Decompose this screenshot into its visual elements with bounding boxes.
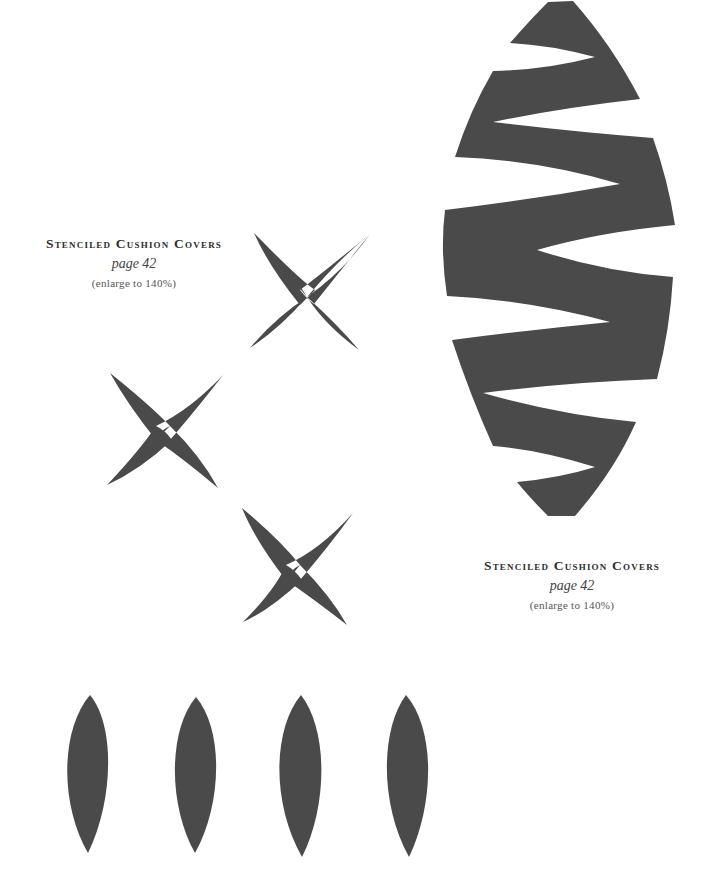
cross-stencil-2 — [107, 373, 223, 488]
caption-right: Stenciled Cushion Covers page 42 (enlarg… — [442, 558, 701, 613]
caption-title: Stenciled Cushion Covers — [442, 558, 701, 574]
stencil-artwork — [0, 0, 701, 887]
caption-enlarge-note: (enlarge to 140%) — [442, 597, 701, 613]
zigzag-oval-stencil — [443, 1, 675, 516]
leaf-stencil-2 — [175, 697, 216, 853]
leaf-stencil-4 — [387, 695, 428, 857]
leaf-stencil-3 — [279, 695, 321, 857]
caption-title: Stenciled Cushion Covers — [4, 236, 264, 252]
leaf-stencil-1 — [67, 695, 108, 853]
caption-page: page 42 — [442, 576, 701, 596]
caption-enlarge-note: (enlarge to 140%) — [4, 275, 264, 291]
caption-left: Stenciled Cushion Covers page 42 (enlarg… — [4, 236, 264, 291]
cross-stencil-3 — [242, 508, 353, 625]
cross-stencil-1 — [250, 233, 370, 350]
caption-page: page 42 — [4, 254, 264, 274]
